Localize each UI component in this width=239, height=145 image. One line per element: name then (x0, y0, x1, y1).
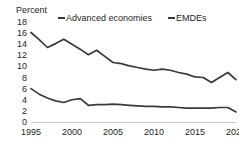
plot-area (0, 0, 239, 145)
series-line-advanced-economies (31, 89, 236, 112)
chart-container: Percent Advanced economies EMDEs 1816141… (0, 0, 239, 145)
series-line-emdes (31, 33, 236, 83)
